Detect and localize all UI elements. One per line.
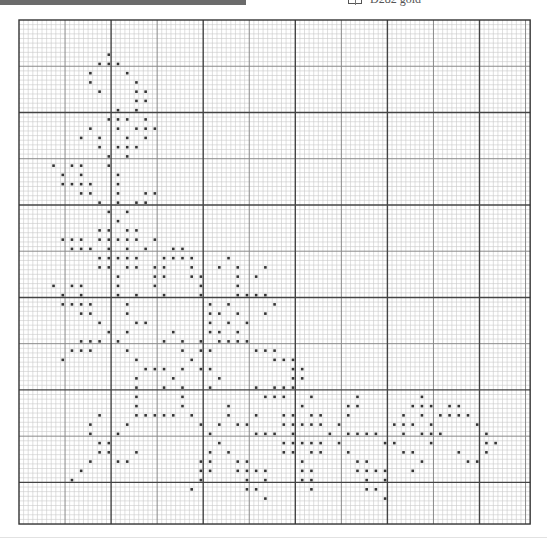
stitch-cell [98, 229, 101, 232]
stitch-cell [80, 285, 83, 288]
stitch-cell [411, 451, 414, 454]
stitch-cell [61, 294, 64, 297]
stitch-cell [163, 368, 166, 371]
stitch-cell [200, 349, 203, 352]
stitch-cell [108, 164, 111, 167]
grid-medium-lines [19, 20, 530, 524]
stitch-cell [71, 183, 74, 186]
stitch-cell [292, 451, 295, 454]
stitch-cell [89, 72, 92, 75]
stitch-cell [154, 238, 157, 241]
stitch-cell [135, 322, 138, 325]
stitch-cell [98, 414, 101, 417]
stitch-cell [190, 275, 193, 278]
stitch-cell [292, 386, 295, 389]
stitch-cell [273, 349, 276, 352]
stitch-cell [135, 257, 138, 260]
stitch-cell [135, 201, 138, 204]
stitch-cell [356, 405, 359, 408]
stitch-cell [246, 460, 249, 463]
stitch-cell [144, 248, 147, 251]
stitch-cell [310, 396, 313, 399]
stitch-cell [338, 442, 341, 445]
stitch-cell [126, 303, 129, 306]
stitch-cell [108, 118, 111, 121]
stitch-cell [89, 192, 92, 195]
stitch-cell [365, 433, 368, 436]
stitch-cell [80, 174, 83, 177]
stitch-cell [117, 433, 120, 436]
stitch-cell [200, 479, 203, 482]
stitch-cell [411, 470, 414, 473]
stitch-cell [181, 257, 184, 260]
stitch-cell [356, 396, 359, 399]
stitch-cell [135, 238, 138, 241]
stitch-cell [135, 266, 138, 269]
stitch-cell [117, 257, 120, 260]
stitch-cell [292, 423, 295, 426]
stitch-cell [227, 303, 230, 306]
stitch-cell [310, 488, 313, 491]
stitch-cell [402, 433, 405, 436]
stitch-cell [108, 442, 111, 445]
stitch-cell [301, 368, 304, 371]
stitch-cell [255, 488, 258, 491]
stitch-cell [209, 303, 212, 306]
stitch-cell [292, 442, 295, 445]
stitch-cell [144, 127, 147, 130]
stitch-cell [126, 238, 129, 241]
stitch-cell [218, 377, 221, 380]
stitch-cell [154, 285, 157, 288]
stitch-cell [144, 90, 147, 93]
stitch-cell [329, 433, 332, 436]
stitch-cell [310, 451, 313, 454]
stitch-cell [126, 349, 129, 352]
stitch-cell [98, 257, 101, 260]
stitch-cell [98, 90, 101, 93]
stitch-cell [273, 396, 276, 399]
stitch-cell [209, 368, 212, 371]
grid-minor-lines [19, 20, 530, 524]
stitch-cell [98, 238, 101, 241]
stitch-cell [227, 451, 230, 454]
stitch-cell [172, 377, 175, 380]
stitch-cell [144, 192, 147, 195]
stitch-cell [264, 470, 267, 473]
stitch-cell [117, 174, 120, 177]
stitch-cell [126, 137, 129, 140]
stitch-cell [154, 127, 157, 130]
stitch-cell [144, 118, 147, 121]
stitch-cell [108, 229, 111, 232]
stitch-cell [117, 146, 120, 149]
stitch-cell [135, 146, 138, 149]
stitch-cell [61, 183, 64, 186]
stitch-cell [98, 451, 101, 454]
stitch-cell [181, 340, 184, 343]
stitch-cell [98, 146, 101, 149]
stitch-cell [135, 229, 138, 232]
stitch-cell [135, 414, 138, 417]
stitch-cell [365, 488, 368, 491]
stitch-cell [292, 359, 295, 362]
stitch-cell [117, 109, 120, 112]
stitch-cell [273, 433, 276, 436]
stitch-cell [80, 470, 83, 473]
stitch-cell [163, 257, 166, 260]
stitch-cell [80, 164, 83, 167]
stitch-cell [467, 414, 470, 417]
stitch-cell [181, 248, 184, 251]
stitch-cell [126, 248, 129, 251]
stitch-cell [126, 257, 129, 260]
stitch-cell [292, 414, 295, 417]
stitch-cell [236, 460, 239, 463]
stitch-cell [282, 451, 285, 454]
stitch-cell [218, 312, 221, 315]
stitch-cell [117, 127, 120, 130]
stitch-cell [411, 423, 414, 426]
stitch-cell [411, 405, 414, 408]
stitch-cell [209, 433, 212, 436]
stitch-cell [135, 386, 138, 389]
stitch-cell [200, 294, 203, 297]
stitch-cell [98, 322, 101, 325]
stitch-cell [181, 368, 184, 371]
